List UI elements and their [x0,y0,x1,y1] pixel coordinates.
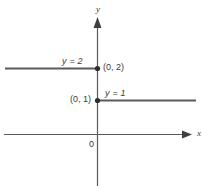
point-0-1-dot [95,98,100,103]
point-0-2-dot [95,66,100,71]
x-axis-label: x [197,129,201,138]
origin-label: 0 [89,140,94,149]
y-axis-arrowhead [94,17,102,28]
line-label-y-equals-1: y = 1 [105,89,126,98]
point-label-0-2: (0, 2) [103,63,124,72]
point-label-0-1: (0, 1) [70,95,91,104]
line-label-y-equals-2: y = 2 [62,57,83,66]
y-axis-label: y [96,5,100,14]
coordinate-graph-figure: y x 0 y = 2 (0, 2) y = 1 (0, 1) [0,0,210,189]
x-axis-arrowhead [182,131,192,139]
